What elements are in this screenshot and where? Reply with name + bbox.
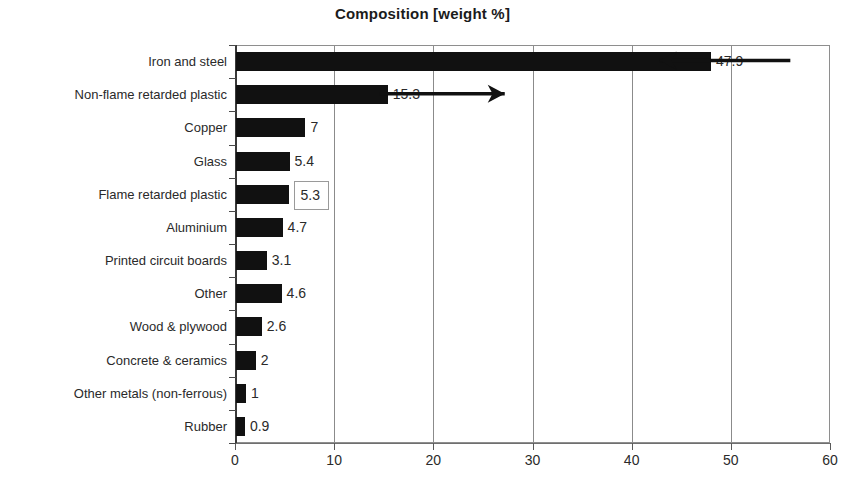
y-tick-0 [229, 45, 236, 46]
bar-value-label-aluminium: 4.7 [288, 218, 307, 237]
bar-value-label-iron-and-steel: 47.9 [716, 52, 743, 71]
x-tick-label-0: 0 [210, 452, 260, 468]
y-tick-6 [229, 244, 236, 245]
x-tick-label-30: 30 [508, 452, 558, 468]
category-label-flame-retarded-plastic: Flame retarded plastic [2, 187, 227, 202]
bar-glass[interactable] [236, 152, 290, 171]
x-tick-0 [235, 443, 236, 450]
category-label-concrete-ceramics: Concrete & ceramics [2, 353, 227, 368]
category-label-glass: Glass [2, 154, 227, 169]
chart-title: Composition [weight %] [0, 5, 845, 22]
y-tick-12 [229, 443, 236, 444]
y-tick-3 [229, 145, 236, 146]
bar-concrete-ceramics[interactable] [236, 351, 256, 370]
category-label-other-metals-non-ferrous: Other metals (non-ferrous) [2, 386, 227, 401]
bar-flame-retarded-plastic[interactable] [236, 185, 289, 204]
category-axis-labels: Iron and steelNon-flame retarded plastic… [0, 45, 231, 443]
bar-value-label-copper: 7 [310, 118, 318, 137]
bar-value-label-rubber: 0.9 [250, 417, 269, 436]
y-tick-1 [229, 78, 236, 79]
bar-wood-plywood[interactable] [236, 317, 262, 336]
bar-value-label-other: 4.6 [287, 284, 306, 303]
bar-other[interactable] [236, 284, 282, 303]
category-label-non-flame-retarded-plastic: Non-flame retarded plastic [2, 87, 227, 102]
y-tick-7 [229, 277, 236, 278]
y-tick-11 [229, 410, 236, 411]
x-tick-20 [433, 443, 434, 450]
bar-series: 47.915.375.45.34.73.14.62.6210.9 [236, 45, 830, 443]
category-label-wood-plywood: Wood & plywood [2, 319, 227, 334]
bar-other-metals-non-ferrous[interactable] [236, 384, 246, 403]
category-label-other: Other [2, 286, 227, 301]
bar-printed-circuit-boards[interactable] [236, 251, 267, 270]
bar-value-label-non-flame-retarded-plastic: 15.3 [393, 85, 420, 104]
x-tick-40 [632, 443, 633, 450]
category-label-aluminium: Aluminium [2, 220, 227, 235]
bar-value-label-other-metals-non-ferrous: 1 [251, 384, 259, 403]
x-tick-50 [731, 443, 732, 450]
category-label-copper: Copper [2, 120, 227, 135]
x-tick-30 [533, 443, 534, 450]
bar-aluminium[interactable] [236, 218, 283, 237]
category-label-printed-circuit-boards: Printed circuit boards [2, 253, 227, 268]
bar-value-label-wood-plywood: 2.6 [267, 317, 286, 336]
x-tick-label-10: 10 [309, 452, 359, 468]
category-label-iron-and-steel: Iron and steel [2, 54, 227, 69]
bar-copper[interactable] [236, 118, 305, 137]
y-tick-10 [229, 377, 236, 378]
y-tick-5 [229, 211, 236, 212]
bar-value-label-printed-circuit-boards: 3.1 [272, 251, 291, 270]
x-tick-label-60: 60 [805, 452, 845, 468]
y-tick-2 [229, 111, 236, 112]
bar-rubber[interactable] [236, 417, 245, 436]
category-label-rubber: Rubber [2, 419, 227, 434]
x-tick-60 [830, 443, 831, 450]
bar-value-label-concrete-ceramics: 2 [261, 351, 269, 370]
bar-value-label-flame-retarded-plastic[interactable]: 5.3 [294, 181, 329, 210]
y-tick-9 [229, 344, 236, 345]
y-tick-4 [229, 178, 236, 179]
bar-iron-and-steel[interactable] [236, 52, 711, 71]
bar-non-flame-retarded-plastic[interactable] [236, 85, 388, 104]
y-tick-8 [229, 310, 236, 311]
x-tick-10 [334, 443, 335, 450]
x-tick-label-50: 50 [706, 452, 756, 468]
bar-value-label-glass: 5.4 [295, 152, 314, 171]
bar-chart: Composition [weight %] Iron and steelNon… [0, 0, 845, 483]
x-tick-label-40: 40 [607, 452, 657, 468]
x-tick-label-20: 20 [408, 452, 458, 468]
